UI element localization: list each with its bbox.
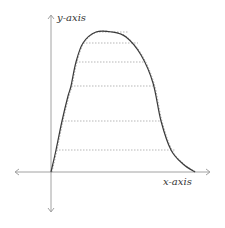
function-curve [51, 31, 195, 172]
dashed-level-lines [56, 32, 175, 150]
y-axis-label: y-axis [57, 12, 86, 23]
approximation-curve-dotted [52, 31, 196, 172]
y-axis [48, 15, 54, 212]
function-diagram: y-axis x-axis [0, 0, 225, 228]
x-axis [15, 169, 210, 175]
diagram-canvas [0, 0, 225, 228]
x-axis-label: x-axis [163, 176, 192, 187]
